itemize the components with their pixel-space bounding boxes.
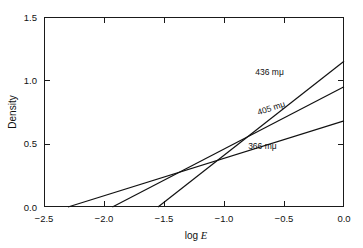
y-tick-label-2: 1.0 <box>24 75 37 86</box>
y-axis-title-text: Density <box>7 95 18 128</box>
chart-background <box>0 0 363 248</box>
x-axis-title-variable: E <box>200 230 208 241</box>
x-axis-title-log: log <box>185 230 201 241</box>
x-tick-label-5: 0.0 <box>337 213 350 224</box>
x-axis-title-text: log E <box>185 230 208 241</box>
y-tick-label-3: 1.5 <box>24 12 37 23</box>
x-tick-label-4: −0.5 <box>275 213 294 224</box>
y-tick-label-1: 0.5 <box>24 138 37 149</box>
series-label-0: 436 mμ <box>255 67 284 77</box>
x-tick-label-2: −1.5 <box>155 213 174 224</box>
y-axis-title: Density <box>7 95 18 128</box>
y-tick-label-0: 0.0 <box>24 202 37 213</box>
x-tick-label-1: −2.0 <box>95 213 114 224</box>
series-label-2: 366 mμ <box>248 141 277 151</box>
x-tick-label-3: −1.0 <box>215 213 234 224</box>
x-tick-label-0: −2.5 <box>35 213 54 224</box>
x-axis-title: log E <box>185 230 208 241</box>
chart-figure: −2.5−2.0−1.5−1.0−0.50.0 0.00.51.01.5 436… <box>0 0 363 248</box>
density-log-exposure-chart: −2.5−2.0−1.5−1.0−0.50.0 0.00.51.01.5 436… <box>0 0 363 248</box>
